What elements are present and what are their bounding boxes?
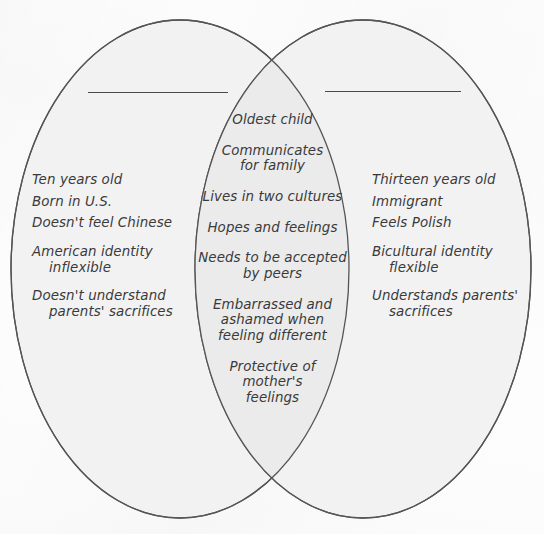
overlap-item: Oldest child — [197, 112, 348, 128]
overlap-item-list: Oldest child Communicates for family Liv… — [197, 112, 348, 421]
venn-diagram-page: Ten years old Born in U.S. Doesn't feel … — [0, 0, 544, 534]
text-layer: Ten years old Born in U.S. Doesn't feel … — [0, 0, 544, 534]
overlap-item-line: feelings — [197, 390, 348, 406]
left-circle-item-line: Ten years old — [32, 172, 122, 187]
left-circle-item-list: Ten years old Born in U.S. Doesn't feel … — [32, 172, 202, 326]
right-circle-item-line: sacrifices — [372, 304, 534, 320]
left-circle-item: Born in U.S. — [32, 194, 202, 210]
overlap-item-line: Communicates — [222, 143, 324, 158]
right-circle-item: Immigrant — [372, 194, 534, 210]
overlap-item-line: Lives in two cultures — [203, 189, 343, 204]
overlap-item: Protective of mother's feelings — [197, 359, 348, 406]
overlap-item-line: feeling different — [197, 328, 348, 344]
overlap-item-line: Oldest child — [232, 112, 312, 127]
overlap-item-line: for family — [197, 158, 348, 174]
left-circle-item-line: inflexible — [32, 260, 202, 276]
overlap-item-line: mother's — [197, 374, 348, 390]
overlap-item-line: Protective of — [229, 359, 315, 374]
right-circle-item-list: Thirteen years old Immigrant Feels Polis… — [372, 172, 534, 326]
right-circle-item: Bicultural identity flexible — [372, 244, 534, 275]
right-circle-item: Understands parents' sacrifices — [372, 288, 534, 319]
left-circle-item-line: Doesn't understand — [32, 288, 166, 303]
left-circle-item: American identity inflexible — [32, 244, 202, 275]
right-circle-item-line: Understands parents' — [372, 288, 518, 303]
left-circle-item-line: Doesn't feel Chinese — [32, 215, 172, 230]
overlap-item-line: Needs to be accepted — [198, 250, 347, 265]
overlap-item: Lives in two cultures — [197, 189, 348, 205]
overlap-item: Needs to be accepted by peers — [197, 250, 348, 281]
overlap-item: Hopes and feelings — [197, 220, 348, 236]
right-circle-item-line: Immigrant — [372, 194, 443, 209]
right-circle-item-line: Feels Polish — [372, 215, 452, 230]
overlap-item: Embarrassed and ashamed when feeling dif… — [197, 297, 348, 344]
right-circle-item-line: flexible — [372, 260, 534, 276]
left-circle-item: Doesn't understand parents' sacrifices — [32, 288, 202, 319]
left-circle-item: Ten years old — [32, 172, 202, 188]
left-circle-item-line: American identity — [32, 244, 153, 259]
overlap-item-line: by peers — [197, 266, 348, 282]
left-circle-item-line: parents' sacrifices — [32, 304, 202, 320]
overlap-item-line: Hopes and feelings — [207, 220, 337, 235]
right-circle-item-line: Bicultural identity — [372, 244, 493, 259]
right-circle-item: Thirteen years old — [372, 172, 534, 188]
right-circle-item: Feels Polish — [372, 215, 534, 231]
left-circle-item: Doesn't feel Chinese — [32, 215, 202, 231]
overlap-item-line: ashamed when — [197, 312, 348, 328]
overlap-item: Communicates for family — [197, 143, 348, 174]
left-circle-item-line: Born in U.S. — [32, 194, 112, 209]
right-circle-item-line: Thirteen years old — [372, 172, 496, 187]
overlap-item-line: Embarrassed and — [213, 297, 332, 312]
